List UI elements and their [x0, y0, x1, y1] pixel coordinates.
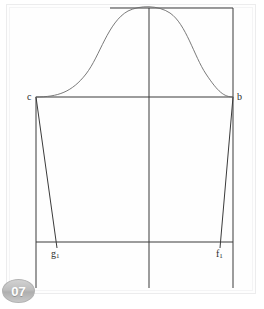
sleeve-cap-curve [36, 7, 233, 97]
pattern-draft-svg [0, 0, 264, 309]
construction-lines-group [36, 8, 233, 288]
point-label-g1: g1 [51, 249, 60, 259]
point-label-c: c [27, 92, 31, 102]
page-number-label: 07 [11, 285, 25, 298]
point-label-b: b [237, 92, 242, 102]
left-underarm-seam [36, 97, 57, 248]
pattern-page: cbg1f1 07 [0, 0, 264, 309]
right-underarm-seam [220, 97, 233, 248]
page-number-badge: 07 [2, 279, 35, 303]
point-label-f1: f1 [216, 249, 223, 259]
